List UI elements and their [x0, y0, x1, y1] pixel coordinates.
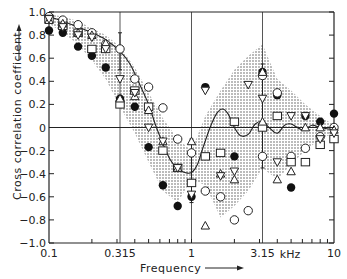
open-circle-marker — [230, 216, 238, 224]
open-circle-marker — [131, 75, 139, 83]
open-triangle-marker — [287, 167, 295, 175]
open-circle-marker — [144, 83, 152, 91]
y-axis-arrowhead — [17, 24, 22, 31]
open-circle-marker — [244, 206, 252, 214]
filled-circle-marker — [230, 152, 238, 160]
filled-circle-marker — [102, 63, 110, 71]
open-square-marker — [216, 149, 224, 156]
x-tick-label: 0.315 — [104, 247, 136, 260]
x-tick-label: 10 — [327, 247, 341, 260]
open-circle-marker — [173, 135, 181, 143]
open-circle-marker — [116, 45, 124, 53]
open-circle-marker — [273, 89, 281, 97]
open-triangle-marker — [201, 221, 209, 229]
open-square-marker — [159, 147, 167, 154]
open-circle-marker — [216, 193, 224, 201]
y-axis-title: Cross correlation coefficient — [11, 32, 24, 200]
open-circle-marker — [159, 104, 167, 112]
open-square-marker — [88, 45, 96, 52]
y-tick-label: 0.4 — [29, 75, 47, 88]
x-axis-unit: kHz — [280, 248, 301, 261]
open-circle-marker — [187, 149, 195, 157]
y-tick-label: 0.6 — [29, 52, 47, 65]
open-circle-marker — [258, 152, 266, 160]
y-tick-label: −1.0 — [19, 237, 46, 250]
filled-circle-marker — [74, 42, 82, 50]
filled-circle-marker — [330, 109, 338, 117]
open-circle-marker — [201, 187, 209, 195]
y-tick-label: 0.8 — [29, 29, 47, 42]
x-axis-title: Frequency — [140, 262, 201, 275]
open-square-marker — [187, 179, 195, 186]
y-tick-label: 1.0 — [29, 6, 47, 19]
y-tick-label: 0.2 — [29, 98, 47, 111]
filled-circle-marker — [45, 26, 53, 34]
open-square-marker — [287, 158, 295, 165]
open-square-marker — [301, 158, 309, 165]
filled-circle-marker — [131, 103, 139, 111]
filled-circle-marker — [159, 181, 167, 189]
open-square-marker — [201, 153, 209, 160]
correlation-chart: 0.10.31513.1510 1.00.80.60.40.20−0.2−0.4… — [0, 0, 347, 279]
open-triangle-marker — [187, 137, 195, 145]
open-inverted-triangle-marker — [201, 87, 209, 95]
x-tick-label: 1 — [188, 247, 195, 260]
filled-circle-marker — [144, 143, 152, 151]
open-square-marker — [230, 118, 238, 125]
filled-circle-marker — [173, 202, 181, 210]
x-axis-arrowhead — [237, 266, 244, 271]
y-tick-label: −0.8 — [19, 214, 46, 227]
open-square-marker — [273, 112, 281, 119]
y-tick-label: 0 — [39, 122, 46, 135]
filled-circle-marker — [287, 183, 295, 191]
x-tick-label: 3.15 — [250, 247, 275, 260]
open-circle-marker — [301, 144, 309, 152]
